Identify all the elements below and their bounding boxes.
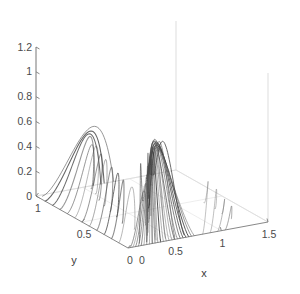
z-tick-label-0: 0 bbox=[26, 190, 32, 202]
x-tick-label-3: 1.5 bbox=[262, 228, 277, 240]
z-tick-label-6: 1.2 bbox=[17, 41, 32, 53]
y-tick-label-1: 0.5 bbox=[77, 228, 92, 240]
y-tick-label-0: 1 bbox=[35, 202, 41, 214]
y-axis-title: y bbox=[71, 254, 77, 266]
x-tick-label-0: 0 bbox=[139, 254, 145, 266]
plot-canvas: 00.20.40.60.811.210.5000.511.5 yx bbox=[0, 0, 300, 294]
z-tick-label-3: 0.6 bbox=[17, 115, 32, 127]
z-tick-label-2: 0.4 bbox=[17, 140, 32, 152]
x-tick-label-1: 0.5 bbox=[168, 245, 183, 257]
y-tick-label-2: 0 bbox=[127, 254, 133, 266]
figure-3d-line-plot: 00.20.40.60.811.210.5000.511.5 yx bbox=[0, 0, 300, 294]
z-tick-label-1: 0.2 bbox=[17, 165, 32, 177]
data-curves bbox=[43, 126, 232, 247]
z-tick-label-4: 0.8 bbox=[17, 90, 32, 102]
x-tick-label-2: 1 bbox=[219, 237, 225, 249]
z-tick-label-5: 1 bbox=[26, 65, 32, 77]
x-axis-title: x bbox=[201, 267, 207, 279]
